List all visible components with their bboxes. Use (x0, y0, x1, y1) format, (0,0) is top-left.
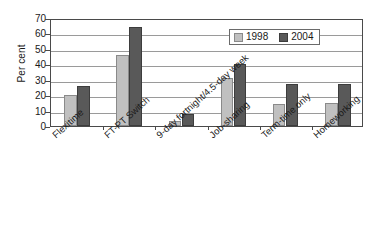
legend-swatch-2004-icon (279, 33, 288, 42)
legend-label-1998: 1998 (246, 32, 268, 42)
y-axis-tick-label: 50 (18, 45, 46, 55)
y-axis-tick-label: 20 (18, 91, 46, 101)
bar-chart-figure: Per cent 010203040506070 1998 2004 Flexi… (0, 0, 376, 248)
y-axis-tick-label: 60 (18, 29, 46, 39)
legend-item-2004[interactable]: 2004 (279, 32, 313, 42)
y-axis-tick-label: 10 (18, 107, 46, 117)
y-axis-tick-mark (45, 127, 50, 128)
legend-swatch-1998-icon (234, 33, 243, 42)
y-axis-tick-label: 40 (18, 60, 46, 70)
y-axis-tick-label: 30 (18, 76, 46, 86)
legend: 1998 2004 (229, 29, 320, 45)
legend-label-2004: 2004 (291, 32, 313, 42)
legend-item-1998[interactable]: 1998 (234, 32, 268, 42)
y-axis-tick-label: 70 (18, 14, 46, 24)
y-axis-tick-label: 0 (18, 122, 46, 132)
y-axis-tick-labels: 010203040506070 (18, 19, 46, 127)
